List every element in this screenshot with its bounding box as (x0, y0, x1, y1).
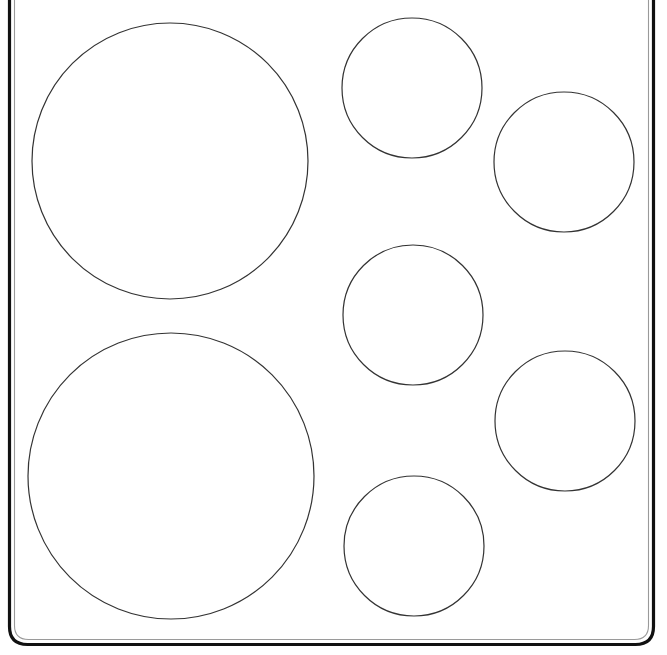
burner-small-top-center (342, 18, 482, 158)
cooktop-frame-inner (15, 0, 649, 640)
burner-large-bottom-left (28, 333, 314, 619)
burner-small-middle-right (495, 351, 635, 491)
burner-small-top-right (494, 92, 634, 232)
burner-small-bottom-center (344, 476, 484, 616)
cooktop-diagram (0, 0, 667, 655)
burner-small-middle-center (343, 245, 483, 385)
cooktop-frame-outer (10, 0, 654, 645)
burner-group (28, 18, 635, 619)
burner-large-top-left (32, 23, 308, 299)
